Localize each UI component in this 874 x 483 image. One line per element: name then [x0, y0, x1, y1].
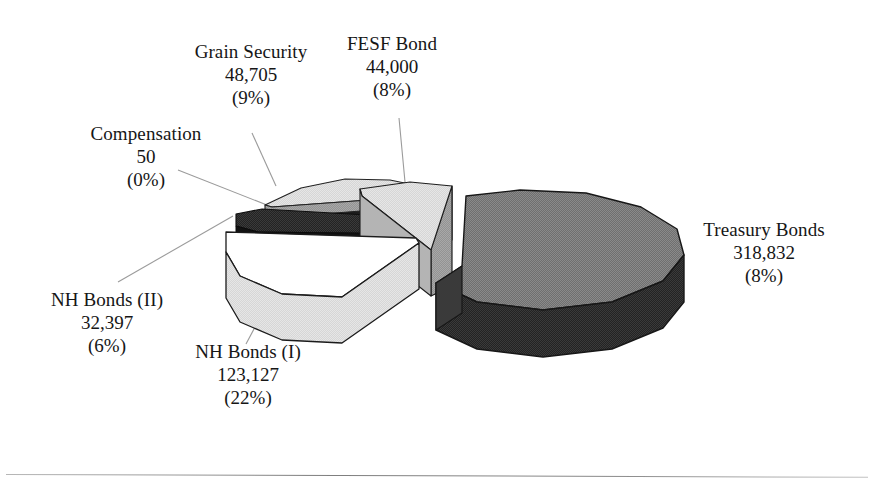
- slice-label-name: NH Bonds (I): [168, 340, 328, 363]
- slice-label-fesf-bond: FESF Bond 44,000 (8%): [330, 32, 454, 102]
- slice-label-value: 48,705: [176, 63, 326, 86]
- slice-label-name: Compensation: [76, 122, 216, 145]
- slice-label-name: Treasury Bonds: [686, 218, 842, 241]
- pie-chart-figure: Grain Security 48,705 (9%) FESF Bond 44,…: [0, 0, 874, 483]
- slice-label-nh-bonds-2: NH Bonds (II) 32,397 (6%): [30, 288, 184, 358]
- slice-label-value: 123,127: [168, 363, 328, 386]
- slice-label-percent: (0%): [76, 168, 216, 191]
- leader-line-nh-bonds-2: [118, 216, 233, 282]
- slice-label-treasury-bonds: Treasury Bonds 318,832 (8%): [686, 218, 842, 288]
- slice-label-percent: (22%): [168, 386, 328, 409]
- slice-label-percent: (9%): [176, 86, 326, 109]
- slice-label-percent: (8%): [330, 78, 454, 101]
- slice-label-name: NH Bonds (II): [30, 288, 184, 311]
- slice-label-grain-security: Grain Security 48,705 (9%): [176, 40, 326, 110]
- slice-label-value: 318,832: [686, 241, 842, 264]
- slice-label-compensation: Compensation 50 (0%): [76, 122, 216, 192]
- slice-label-name: FESF Bond: [330, 32, 454, 55]
- slice-label-name: Grain Security: [176, 40, 326, 63]
- slice-label-percent: (6%): [30, 334, 184, 357]
- slice-label-percent: (8%): [686, 264, 842, 287]
- slice-label-nh-bonds-1: NH Bonds (I) 123,127 (22%): [168, 340, 328, 410]
- slice-label-value: 44,000: [330, 55, 454, 78]
- slice-label-value: 32,397: [30, 311, 184, 334]
- leader-line-grain-security: [252, 133, 276, 186]
- pie-slice-treasury-bonds: [436, 190, 684, 357]
- leader-line-fesf-bond: [399, 118, 405, 182]
- slice-label-value: 50: [76, 145, 216, 168]
- pie-slice-nh-bonds-1: [226, 232, 419, 343]
